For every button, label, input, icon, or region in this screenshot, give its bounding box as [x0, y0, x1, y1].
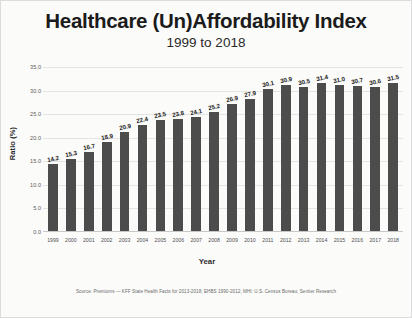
bar[interactable]: [102, 142, 112, 231]
bar-slot: 20.9: [116, 67, 134, 231]
x-axis-tick-label: 2013: [295, 237, 313, 243]
bar[interactable]: [191, 117, 201, 231]
plot-area: Ratio (%) 0.05.010.015.020.025.030.035.0…: [1, 67, 412, 252]
plot-canvas: 14.215.316.718.920.922.423.523.824.125.2…: [43, 67, 403, 232]
x-axis-tick-label: 2007: [187, 237, 205, 243]
y-axis-tick-label: 35.0: [30, 64, 41, 70]
bar[interactable]: [317, 83, 327, 231]
x-axis-tick-label: 2003: [116, 237, 134, 243]
bar-value-label: 30.6: [369, 77, 382, 86]
bar-slot: 30.5: [295, 67, 313, 231]
bar-slot: 27.9: [241, 67, 259, 231]
bar-value-label: 27.9: [243, 89, 256, 98]
bar-value-label: 18.9: [100, 132, 113, 141]
x-axis-tick-label: 2017: [366, 237, 384, 243]
bar-value-label: 22.4: [136, 115, 149, 124]
x-axis-tick-label: 2018: [384, 237, 402, 243]
bar[interactable]: [245, 99, 255, 231]
bar-slot: 25.2: [205, 67, 223, 231]
bar-slot: 23.8: [169, 67, 187, 231]
bar[interactable]: [227, 104, 237, 231]
bar-slot: 26.9: [223, 67, 241, 231]
y-axis-tick-label: 10.0: [30, 182, 41, 188]
bar-value-label: 16.7: [82, 142, 95, 151]
bar[interactable]: [48, 164, 58, 231]
bar[interactable]: [84, 152, 94, 231]
bar[interactable]: [281, 85, 291, 231]
bar[interactable]: [66, 159, 76, 231]
bar-value-label: 26.9: [225, 94, 238, 103]
bar-value-label: 15.3: [64, 149, 77, 158]
bar[interactable]: [335, 85, 345, 231]
bar-value-label: 31.4: [315, 73, 328, 82]
bar-slot: 23.5: [151, 67, 169, 231]
y-axis-tick-label: 15.0: [30, 158, 41, 164]
bar-slot: 16.7: [80, 67, 98, 231]
bar-slot: 30.6: [366, 67, 384, 231]
bar-value-label: 14.2: [46, 154, 59, 163]
bar[interactable]: [120, 132, 130, 231]
chart-subtitle: 1999 to 2018: [1, 36, 411, 51]
bar-slot: 24.1: [187, 67, 205, 231]
y-axis-ticks: 0.05.010.015.020.025.030.035.0: [21, 67, 41, 232]
bar-value-label: 20.9: [118, 122, 131, 131]
x-axis-tick-label: 2011: [259, 237, 277, 243]
x-axis-tick-label: 1999: [44, 237, 62, 243]
y-axis-tick-label: 5.0: [33, 205, 41, 211]
x-axis-tick-label: 2000: [62, 237, 80, 243]
y-axis-tick-label: 30.0: [30, 88, 41, 94]
bar[interactable]: [263, 89, 273, 231]
bar[interactable]: [138, 125, 148, 231]
bar[interactable]: [299, 87, 309, 231]
bar-slot: 30.7: [348, 67, 366, 231]
bar-slot: 30.9: [277, 67, 295, 231]
chart-figure: Healthcare (Un)Affordability Index 1999 …: [0, 0, 412, 318]
bar[interactable]: [209, 112, 219, 231]
x-axis-tick-label: 2016: [348, 237, 366, 243]
x-axis-tick-label: 2004: [134, 237, 152, 243]
y-axis-tick-label: 0.0: [33, 229, 41, 235]
y-axis-title: Ratio (%): [8, 109, 17, 179]
x-axis-title: Year: [1, 257, 412, 266]
x-axis-ticks: 1999200020012002200320042005200620072008…: [43, 237, 403, 243]
y-axis-tick-label: 25.0: [30, 111, 41, 117]
bar-value-label: 30.9: [279, 75, 292, 84]
bar-value-label: 23.8: [172, 109, 185, 118]
bar-slot: 22.4: [134, 67, 152, 231]
bar[interactable]: [370, 87, 380, 231]
bar-slot: 15.3: [62, 67, 80, 231]
bar-slot: 31.0: [331, 67, 349, 231]
bar-value-label: 31.0: [333, 75, 346, 84]
x-axis-tick-label: 2010: [241, 237, 259, 243]
bar-slot: 30.1: [259, 67, 277, 231]
x-axis-tick-label: 2012: [277, 237, 295, 243]
bar-value-label: 25.2: [207, 102, 220, 111]
bar-value-label: 23.5: [154, 110, 167, 119]
bar-value-label: 30.7: [351, 76, 364, 85]
x-axis-tick-label: 2001: [80, 237, 98, 243]
bar-slot: 18.9: [98, 67, 116, 231]
bar[interactable]: [156, 120, 166, 231]
bar[interactable]: [353, 86, 363, 231]
source-note: Source: Premiums — KFF State Health Fact…: [1, 289, 411, 294]
bar-value-label: 30.1: [261, 79, 274, 88]
bar-slot: 14.2: [44, 67, 62, 231]
bar-slot: 31.4: [313, 67, 331, 231]
x-axis-tick-label: 2009: [223, 237, 241, 243]
bar[interactable]: [388, 83, 398, 232]
bar-slot: 31.5: [384, 67, 402, 231]
bar-value-label: 30.5: [297, 77, 310, 86]
x-axis-tick-label: 2015: [331, 237, 349, 243]
x-axis-tick-label: 2008: [205, 237, 223, 243]
x-axis-tick-label: 2005: [151, 237, 169, 243]
bar[interactable]: [173, 119, 183, 231]
x-axis-tick-label: 2006: [169, 237, 187, 243]
bar-value-label: 24.1: [190, 107, 203, 116]
y-axis-tick-label: 20.0: [30, 135, 41, 141]
x-axis-tick-label: 2002: [98, 237, 116, 243]
bar-value-label: 31.5: [387, 72, 400, 81]
x-axis-tick-label: 2014: [313, 237, 331, 243]
bar-series: 14.215.316.718.920.922.423.523.824.125.2…: [43, 67, 403, 231]
chart-title: Healthcare (Un)Affordability Index: [1, 10, 411, 32]
